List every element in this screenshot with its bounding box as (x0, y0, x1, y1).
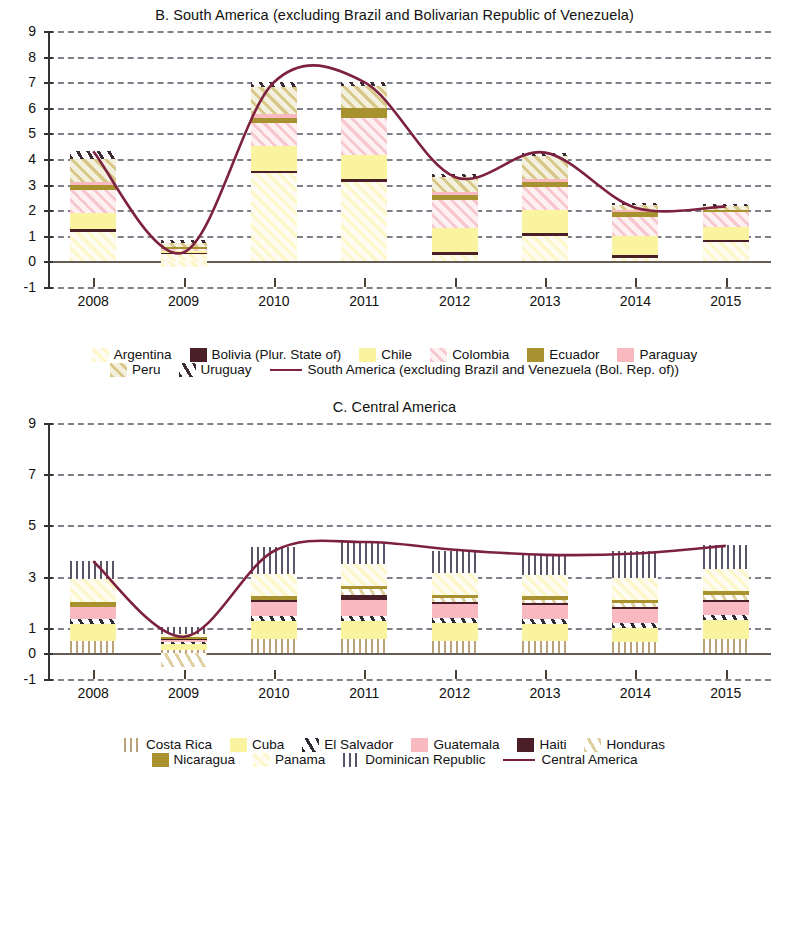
x-axis-tick (726, 670, 728, 679)
bar-segment (161, 642, 207, 644)
legend-item[interactable]: Cuba (230, 737, 284, 752)
bar-segment (161, 240, 207, 244)
y-axis-tick-label: 0 (8, 645, 36, 661)
panel-c-title: C. Central America (0, 399, 789, 415)
bar-segment (703, 569, 749, 591)
bar-segment (161, 637, 207, 639)
bar-segment (251, 123, 297, 146)
bar-segment (612, 217, 658, 236)
bar-segment (161, 627, 207, 635)
legend-item[interactable]: Argentina (92, 347, 172, 362)
x-axis-tick (545, 670, 547, 679)
legend-item[interactable]: Chile (359, 347, 412, 362)
legend-item[interactable]: Paraguay (617, 347, 697, 362)
bar-segment (522, 624, 568, 641)
x-axis-tick-label: 2010 (234, 685, 314, 701)
legend-item[interactable]: Dominican Republic (343, 752, 485, 767)
bar-segment-negative (161, 261, 207, 266)
bar-segment (522, 179, 568, 182)
legend-line-label: Central America (541, 752, 637, 767)
legend-item[interactable]: Ecuador (527, 347, 599, 362)
bar-segment (161, 643, 207, 649)
panel-b-title: B. South America (excluding Brazil and B… (0, 0, 789, 23)
legend-swatch (230, 738, 247, 752)
legend-item[interactable]: Uruguay (179, 362, 252, 377)
bar-segment (251, 146, 297, 170)
legend-line-swatch (503, 759, 535, 761)
bar-segment (703, 595, 749, 600)
y-axis-tick-label: 0 (8, 253, 36, 269)
bar-segment (432, 551, 478, 573)
legend-row: ArgentinaBolivia (Plur. State of)ChileCo… (0, 347, 789, 362)
legend-item-line[interactable]: South America (excluding Brazil and Vene… (270, 362, 679, 377)
legend-swatch (617, 348, 634, 362)
bar-segment (522, 603, 568, 605)
bar-segment (70, 213, 116, 230)
gridline (48, 57, 771, 59)
bar-segment (432, 603, 478, 617)
bar-segment (70, 561, 116, 579)
bar-segment (522, 605, 568, 619)
legend-label: Panama (275, 752, 325, 767)
bar-segment (703, 591, 749, 595)
legend-item[interactable]: Haiti (517, 737, 566, 752)
bar-segment (432, 195, 478, 200)
legend-item[interactable]: Nicaragua (152, 752, 236, 767)
bar-segment (251, 173, 297, 261)
legend-item[interactable]: Bolivia (Plur. State of) (190, 347, 342, 362)
gridline (48, 210, 771, 212)
bar-segment (612, 551, 658, 578)
bar-segment (703, 204, 749, 206)
legend-row: PeruUruguaySouth America (excluding Braz… (0, 362, 789, 377)
panel-b-legend: ArgentinaBolivia (Plur. State of)ChileCo… (0, 347, 789, 377)
bar-segment (522, 187, 568, 210)
y-axis-tick (44, 679, 53, 681)
bar-segment (341, 542, 387, 564)
bar-segment (432, 618, 478, 623)
legend-label: Haiti (539, 737, 566, 752)
bar-segment (612, 603, 658, 607)
gridline (48, 159, 771, 161)
bar-segment (612, 642, 658, 654)
bar-segment (703, 210, 749, 212)
y-axis-tick-label: 5 (8, 125, 36, 141)
legend-label: Dominican Republic (365, 752, 485, 767)
x-axis-tick (184, 670, 186, 679)
y-axis-tick-label: 7 (8, 466, 36, 482)
x-axis-tick-label: 2011 (324, 293, 404, 309)
bar-segment (522, 596, 568, 600)
bar-segment (341, 155, 387, 179)
bar-segment (522, 153, 568, 157)
x-axis-tick-label: 2010 (234, 293, 314, 309)
bar-segment (70, 624, 116, 641)
bar-segment (70, 182, 116, 185)
gridline (48, 31, 771, 33)
legend-item[interactable]: Peru (110, 362, 161, 377)
legend-item[interactable]: El Salvador (302, 737, 393, 752)
legend-item[interactable]: Guatemala (411, 737, 499, 752)
legend-swatch (152, 753, 169, 767)
legend-item[interactable]: Costa Rica (124, 737, 212, 752)
plot-area: -101357920082009201020112012201320142015 (0, 415, 789, 725)
legend-swatch (302, 738, 319, 752)
bar-segment (341, 621, 387, 639)
legend-item-line[interactable]: Central America (503, 752, 637, 767)
bar-segment (432, 598, 478, 602)
legend-item[interactable]: Panama (253, 752, 325, 767)
legend-swatch (253, 753, 270, 767)
legend-label: Honduras (606, 737, 665, 752)
y-axis-tick-label: 4 (8, 151, 36, 167)
legend-item[interactable]: Colombia (430, 347, 509, 362)
legend-swatch (179, 363, 196, 377)
bar-segment (341, 564, 387, 586)
y-axis-tick-label: 8 (8, 49, 36, 65)
legend-item[interactable]: Honduras (584, 737, 665, 752)
legend-swatch (110, 363, 127, 377)
bar-segment (341, 179, 387, 182)
legend-label: Bolivia (Plur. State of) (212, 347, 342, 362)
x-axis-tick (545, 278, 547, 287)
legend-label: Uruguay (201, 362, 252, 377)
y-axis-tick (44, 287, 53, 289)
bar-segment (703, 615, 749, 620)
bar-segment (341, 616, 387, 621)
